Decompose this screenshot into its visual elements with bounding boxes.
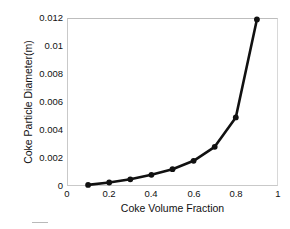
- data-point: [170, 166, 176, 172]
- x-tick-label: 0.2: [102, 189, 115, 199]
- data-point: [127, 176, 133, 182]
- x-tick-label: 0.4: [144, 189, 157, 199]
- y-tick-label: 0.012: [39, 13, 63, 23]
- data-point: [212, 144, 218, 150]
- data-point: [85, 182, 91, 188]
- chart-figure: 0.012 0.01 0.008 0.006 0.004 0.002 0 0 0…: [0, 0, 290, 229]
- y-tick-label: 0: [58, 181, 63, 191]
- y-axis-title: Coke Particle Diameter(m): [22, 12, 34, 192]
- y-tick-label: 0.008: [39, 69, 63, 79]
- y-tick-label: 0.004: [39, 125, 63, 135]
- data-point: [254, 17, 260, 23]
- x-tick-label: 0: [64, 189, 69, 199]
- x-tick-label: 0.6: [187, 189, 200, 199]
- x-tick-label: 1: [275, 189, 280, 199]
- data-point: [191, 158, 197, 164]
- y-tick-label: 0.006: [39, 97, 63, 107]
- x-tick-label: 0.8: [229, 189, 242, 199]
- data-point: [149, 172, 155, 178]
- data-point: [233, 115, 239, 121]
- data-series-line: [88, 19, 257, 184]
- data-point: [106, 180, 112, 186]
- y-tick-label: 0.01: [45, 41, 64, 51]
- x-axis-title: Coke Volume Fraction: [67, 202, 278, 214]
- data-series-markers: [85, 17, 260, 188]
- y-tick-label: 0.002: [39, 153, 63, 163]
- scan-artifact-line: [32, 222, 48, 223]
